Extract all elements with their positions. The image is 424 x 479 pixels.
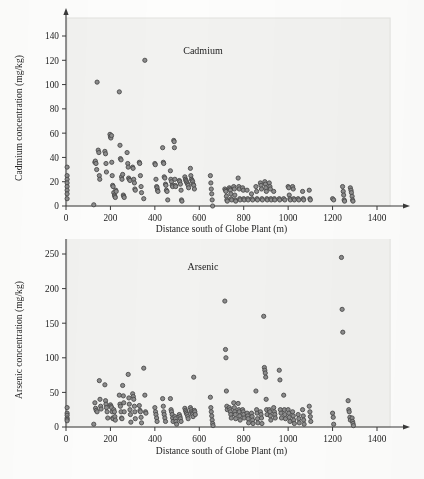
data-point bbox=[94, 161, 98, 165]
data-point bbox=[211, 204, 215, 208]
data-point bbox=[291, 414, 295, 418]
x-tick-label: 400 bbox=[148, 434, 162, 444]
data-point bbox=[260, 421, 264, 425]
data-point bbox=[232, 187, 236, 191]
data-point bbox=[172, 146, 176, 150]
y-tick-label: 150 bbox=[45, 319, 59, 329]
data-point bbox=[236, 401, 240, 405]
x-tick-label: 1000 bbox=[279, 213, 298, 223]
y-tick-label: 100 bbox=[45, 80, 59, 90]
data-point bbox=[264, 375, 268, 379]
data-point bbox=[249, 192, 253, 196]
data-point bbox=[113, 418, 117, 422]
data-point bbox=[341, 330, 345, 334]
x-tick-label: 0 bbox=[64, 213, 69, 223]
data-point bbox=[138, 410, 142, 414]
data-point bbox=[161, 404, 165, 408]
x-tick-label: 400 bbox=[148, 213, 162, 223]
data-point bbox=[254, 389, 258, 393]
data-point bbox=[113, 195, 117, 199]
data-point bbox=[351, 199, 355, 203]
data-point bbox=[247, 421, 251, 425]
data-point bbox=[97, 150, 101, 154]
data-point bbox=[308, 415, 312, 419]
data-point bbox=[208, 395, 212, 399]
data-point bbox=[254, 184, 258, 188]
data-point bbox=[92, 203, 96, 207]
data-point bbox=[117, 90, 121, 94]
data-point bbox=[175, 422, 179, 426]
data-point bbox=[119, 158, 123, 162]
data-point bbox=[259, 187, 263, 191]
data-point bbox=[163, 419, 167, 423]
data-point bbox=[179, 188, 183, 192]
data-point bbox=[143, 393, 147, 397]
data-point bbox=[246, 417, 250, 421]
x-tick-label: 1200 bbox=[323, 213, 342, 223]
data-point bbox=[104, 161, 108, 165]
y-tick-label: 120 bbox=[45, 56, 59, 66]
data-point bbox=[65, 192, 69, 196]
data-point bbox=[154, 177, 158, 181]
y-tick-label: 0 bbox=[54, 422, 59, 432]
data-point bbox=[302, 418, 306, 422]
data-point bbox=[236, 176, 240, 180]
data-point bbox=[156, 189, 160, 193]
data-point bbox=[127, 402, 131, 406]
data-point bbox=[186, 417, 190, 421]
data-point bbox=[139, 191, 143, 195]
data-point bbox=[232, 406, 236, 410]
data-point bbox=[92, 422, 96, 426]
y-axis-title: Cadmium concentration (mg/kg) bbox=[13, 55, 25, 181]
data-point bbox=[142, 366, 146, 370]
data-point bbox=[180, 199, 184, 203]
data-point bbox=[232, 401, 236, 405]
data-point bbox=[95, 410, 99, 414]
data-point bbox=[307, 404, 311, 408]
data-point bbox=[187, 186, 191, 190]
data-point bbox=[259, 416, 263, 420]
cadmium-chart-panel: 0204060801001201400200400600800100012001… bbox=[0, 0, 424, 240]
data-point bbox=[114, 189, 118, 193]
x-tick-label: 0 bbox=[64, 434, 69, 444]
x-axis-title: Distance south of Globe Plant (m) bbox=[156, 223, 287, 235]
data-point bbox=[131, 166, 135, 170]
y-tick-label: 50 bbox=[50, 388, 60, 398]
data-point bbox=[137, 403, 141, 407]
data-point bbox=[168, 169, 172, 173]
data-point bbox=[166, 198, 170, 202]
x-tick-label: 1200 bbox=[323, 434, 342, 444]
x-tick-label: 200 bbox=[103, 434, 117, 444]
data-point bbox=[98, 177, 102, 181]
data-point bbox=[309, 419, 313, 423]
data-point bbox=[233, 412, 237, 416]
data-point bbox=[282, 393, 286, 397]
data-point bbox=[224, 389, 228, 393]
data-point bbox=[307, 188, 311, 192]
data-point bbox=[132, 397, 136, 401]
data-point bbox=[224, 356, 228, 360]
data-point bbox=[168, 397, 172, 401]
data-point bbox=[121, 383, 125, 387]
data-point bbox=[138, 161, 142, 165]
x-tick-label: 600 bbox=[192, 213, 206, 223]
data-point bbox=[97, 379, 101, 383]
x-axis-arrow bbox=[403, 203, 410, 208]
data-point bbox=[260, 198, 264, 202]
data-point bbox=[104, 406, 108, 410]
data-point bbox=[300, 408, 304, 412]
data-point bbox=[95, 80, 99, 84]
data-point bbox=[223, 347, 227, 351]
data-point bbox=[300, 189, 304, 193]
x-axis-arrow bbox=[403, 424, 410, 429]
data-point bbox=[110, 160, 114, 164]
x-tick-label: 800 bbox=[237, 434, 251, 444]
data-point bbox=[255, 198, 259, 202]
data-point bbox=[65, 165, 69, 169]
data-point bbox=[332, 198, 336, 202]
data-point bbox=[223, 299, 227, 303]
data-point bbox=[269, 418, 273, 422]
y-tick-label: 40 bbox=[50, 153, 60, 163]
data-point bbox=[268, 410, 272, 414]
data-point bbox=[127, 396, 131, 400]
